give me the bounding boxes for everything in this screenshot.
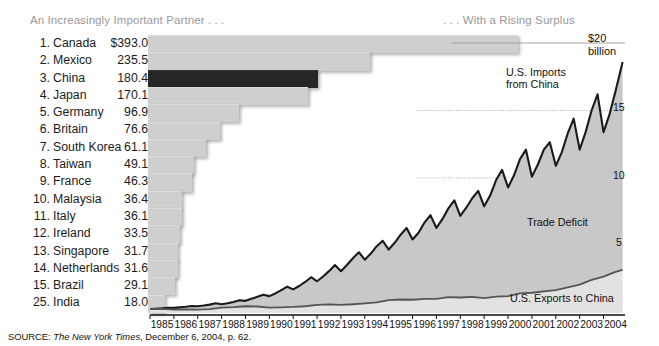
ranking-value: 36.4 (124, 191, 148, 208)
bar-netherlands (148, 260, 178, 278)
ranking-value: 170.1 (117, 87, 148, 104)
ranking-value: 96.9 (124, 104, 148, 121)
ranking-country-name: Taiwan (53, 156, 124, 173)
x-tick-label-2004: 2004 (604, 319, 627, 330)
ranking-value: 31.7 (124, 243, 148, 260)
ranking-row: 4.Japan170.1 (28, 87, 148, 104)
x-tick-label-1991: 1991 (294, 319, 317, 330)
ranking-position: 14. (28, 260, 53, 277)
ranking-value: 36.1 (124, 208, 148, 225)
ranking-row: 14.Netherlands31.6 (28, 260, 148, 277)
ranking-position: 11. (28, 208, 53, 225)
bar-japan (148, 87, 308, 105)
x-tick-label-1985: 1985 (151, 319, 174, 330)
x-tick-label-1998: 1998 (461, 319, 484, 330)
ranking-row: 2.Mexico235.5 (28, 52, 148, 69)
ranking-row: 9.France46.3 (28, 173, 148, 190)
ranking-row: 12.Ireland33.5 (28, 225, 148, 242)
ranking-position: 6. (28, 121, 53, 138)
ranking-position: 25. (28, 294, 53, 311)
x-tick-label-1987: 1987 (198, 319, 221, 330)
ranking-value: 235.5 (117, 52, 148, 69)
x-tick-label-1995: 1995 (389, 319, 412, 330)
right-panel-title: . . . With a Rising Surplus (443, 14, 575, 26)
ranking-row: 7.South Korea61.1 (28, 139, 148, 156)
ranking-position: 15. (28, 277, 53, 294)
bar-britain (148, 122, 220, 140)
ranking-value: 18.0 (124, 294, 148, 311)
y-axis-label-15: 15 (613, 101, 625, 113)
ranking-position: 3. (28, 70, 53, 87)
bar-italy (148, 208, 182, 226)
ranking-country-name: Germany (53, 104, 124, 121)
annotation-us-imports-line1: U.S. Imports (506, 66, 566, 78)
x-tick-label-1997: 1997 (437, 319, 460, 330)
bar-china (148, 70, 318, 88)
y-axis-unit-label: billion (588, 45, 616, 57)
ranking-country-name: Malaysia (53, 191, 124, 208)
ranking-position: 8. (28, 156, 53, 173)
ranking-country-name: Netherlands (53, 260, 124, 277)
ranking-value: 61.1 (124, 139, 148, 156)
x-tick-label-1999: 1999 (485, 319, 508, 330)
bar-india (148, 295, 165, 313)
ranking-row: 5.Germany96.9 (28, 104, 148, 121)
source-suffix: , December 6, 2004, p. 62. (140, 331, 251, 342)
ranking-position: 12. (28, 225, 53, 242)
ranking-position: 9. (28, 173, 53, 190)
x-tick-label-1992: 1992 (318, 319, 341, 330)
ranking-value: 76.6 (124, 121, 148, 138)
ranking-row: 6.Britain76.6 (28, 121, 148, 138)
x-tick-label-1988: 1988 (222, 319, 245, 330)
annotation-us-exports: U.S. Exports to China (510, 292, 614, 304)
bar-ireland (148, 225, 180, 243)
bar-brazil (148, 277, 175, 295)
ranking-row: 25.India18.0 (28, 294, 148, 311)
ranking-country-name: Brazil (53, 277, 124, 294)
bar-south-korea (148, 139, 206, 157)
ranking-position: 2. (28, 52, 53, 69)
ranking-value: 29.1 (124, 277, 148, 294)
ranking-value: 33.5 (124, 225, 148, 242)
ranking-country-name: Ireland (53, 225, 124, 242)
x-tick-label-1996: 1996 (413, 319, 436, 330)
ranking-value: 180.4 (117, 70, 148, 87)
ranking-row: 10.Malaysia36.4 (28, 191, 148, 208)
bar-germany (148, 104, 239, 122)
x-tick-label-1993: 1993 (342, 319, 365, 330)
ranking-country-name: Canada (53, 35, 110, 52)
ranking-position: 10. (28, 191, 53, 208)
x-tick-label-2002: 2002 (556, 319, 579, 330)
ranking-position: 13. (28, 243, 53, 260)
left-panel-title: An Increasingly Important Partner . . . (30, 14, 224, 26)
ranking-country-name: Japan (53, 87, 117, 104)
ranking-country-name: Singapore (53, 243, 124, 260)
annotation-us-imports-line2: from China (506, 78, 566, 90)
x-tick-label-1986: 1986 (175, 319, 198, 330)
ranking-position: 5. (28, 104, 53, 121)
ranking-value: 49.1 (124, 156, 148, 173)
ranking-position: 7. (28, 139, 53, 156)
ranking-country-name: India (53, 294, 124, 311)
ranking-value: 46.3 (124, 173, 148, 190)
ranking-row: 8.Taiwan49.1 (28, 156, 148, 173)
source-prefix: SOURCE: (8, 331, 53, 342)
annotation-trade-deficit: Trade Deficit (527, 216, 588, 228)
source-publication: The New York Times (53, 331, 140, 342)
ranking-country-name: Britain (53, 121, 124, 138)
ranking-country-name: South Korea (53, 139, 124, 156)
country-ranking-list: 1.Canada$393.02.Mexico235.53.China180.44… (28, 35, 148, 312)
figure-container: An Increasingly Important Partner . . . … (0, 0, 659, 346)
ranking-country-name: Mexico (53, 52, 117, 69)
bar-taiwan (148, 156, 194, 174)
ranking-country-name: Italy (53, 208, 124, 225)
ranking-position: 1. (28, 35, 53, 52)
ranking-row: 1.Canada$393.0 (28, 35, 148, 52)
y-axis-label-20: $20 (588, 32, 606, 44)
x-tick-label-2001: 2001 (533, 319, 556, 330)
y-axis-label-5: 5 (616, 236, 622, 248)
ranking-row: 3.China180.4 (28, 70, 148, 87)
ranking-country-name: France (53, 173, 124, 190)
ranking-position: 4. (28, 87, 53, 104)
ranking-row: 11.Italy36.1 (28, 208, 148, 225)
